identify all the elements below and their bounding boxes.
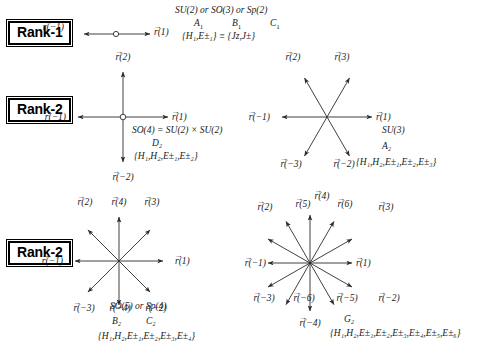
root-label-d2-r1: →r(1) bbox=[172, 112, 187, 122]
rank-2-badge-second: Rank-2 bbox=[6, 239, 73, 267]
caption-d2-groups: SO(4) = SU(2) × SU(2) bbox=[132, 124, 222, 137]
caption-a2-groups: SU(3) bbox=[382, 124, 405, 137]
root-label-b2-r3: →r(3) bbox=[145, 197, 160, 207]
root-label-a2-rm2: →r(−2) bbox=[333, 159, 354, 169]
root-diagram-b2 bbox=[65, 207, 173, 315]
root-label-d2-r2: →r(2) bbox=[116, 52, 131, 62]
root-vector-b2-r3 bbox=[119, 230, 150, 261]
root-label-a2-rm3: →r(−3) bbox=[280, 159, 301, 169]
caption-d2-generators: {H₁,H₂,E±₁,E±₂} bbox=[134, 150, 198, 163]
root-vector-g2-r3 bbox=[310, 239, 352, 263]
root-label-d2-rm1: →r(−1) bbox=[45, 112, 66, 122]
root-label-a1-rm1: →r(−1) bbox=[43, 22, 64, 32]
root-label-g2-r3: →r(3) bbox=[379, 202, 394, 212]
root-label-b2-r4: →r(4) bbox=[112, 197, 127, 207]
caption-a1-cartan-c: C1 bbox=[270, 17, 280, 33]
caption-g2-generators: {H₁,H₂,E±₁,E±₂,E±₃,E±₄,E±₅,E±₆} bbox=[330, 327, 460, 340]
root-label-g2-r1: →r(1) bbox=[356, 258, 371, 268]
caption-a2-cartan: A₂ bbox=[382, 140, 391, 153]
root-label-a2-r3: →r(3) bbox=[335, 52, 350, 62]
root-label-g2-rm5: →r(−5) bbox=[336, 293, 357, 303]
root-label-a2-rm1: →r(−1) bbox=[249, 112, 270, 122]
root-label-g2-rm6: →r(−6) bbox=[293, 293, 314, 303]
root-vector-a2-rm2 bbox=[327, 117, 350, 156]
root-label-a2-r1: →r(1) bbox=[376, 112, 391, 122]
caption-a1-groups: SU(2) or SO(3) or Sp(2) bbox=[175, 4, 267, 17]
root-label-g2-r4: →r(4) bbox=[315, 191, 330, 201]
root-label-g2-rm1: →r(−1) bbox=[245, 258, 266, 268]
root-vector-a2-r2 bbox=[305, 78, 328, 117]
g2-svg bbox=[252, 203, 368, 331]
b2-svg bbox=[65, 207, 173, 315]
root-vector-b2-rm2 bbox=[119, 261, 150, 292]
root-label-b2-rm3: →r(−3) bbox=[73, 303, 94, 313]
root-label-g2-rm3: →r(−3) bbox=[253, 293, 274, 303]
caption-b2-cartan-c: C₂ bbox=[146, 315, 156, 328]
root-label-d2-rm2: →r(−2) bbox=[112, 172, 133, 182]
root-vector-g2-r5 bbox=[286, 221, 310, 263]
caption-b2-groups: SO(5) or Sp(4) bbox=[110, 300, 166, 313]
caption-d2-cartan: D₂ bbox=[152, 137, 162, 150]
root-label-b2-rm1: →r(−1) bbox=[42, 256, 63, 266]
root-label-b2-r1: →r(1) bbox=[175, 256, 190, 266]
root-label-g2-r5: →r(5) bbox=[296, 199, 311, 209]
caption-b2-cartan-b: B₂ bbox=[112, 315, 121, 328]
root-vector-b2-r2 bbox=[88, 230, 119, 261]
root-vector-a2-rm3 bbox=[305, 117, 328, 156]
root-vector-a2-r3 bbox=[327, 78, 350, 117]
root-vector-g2-r2 bbox=[268, 239, 310, 263]
root-label-a1-r1: →r(1) bbox=[154, 27, 169, 37]
root-vector-g2-r6 bbox=[310, 221, 334, 263]
root-label-b2-r2: →r(2) bbox=[78, 197, 93, 207]
root-label-g2-rm4: →r(−4) bbox=[299, 318, 320, 328]
root-vector-g2-rm3 bbox=[268, 263, 310, 287]
root-label-g2-rm2: →r(−2) bbox=[378, 293, 399, 303]
caption-a1-generators: {H₁,E±₁} ≡ {Jᴢ,J±} bbox=[182, 30, 255, 43]
caption-a2-generators: {H₁,H₂,E±₁,E±₂,E±₃} bbox=[356, 156, 436, 169]
caption-g2-cartan: G₂ bbox=[344, 313, 354, 326]
caption-b2-generators: {H₁,H₂,E±₁,E±₂,E±₃,E±₄} bbox=[98, 330, 195, 343]
root-label-g2-r6: →r(6) bbox=[338, 199, 353, 209]
root-vector-g2-rm2 bbox=[310, 263, 352, 287]
root-diagram-g2 bbox=[252, 203, 368, 331]
root-label-g2-r2: →r(2) bbox=[258, 202, 273, 212]
origin-marker bbox=[113, 31, 118, 36]
root-label-a2-r2: →r(2) bbox=[286, 52, 301, 62]
root-vector-b2-rm3 bbox=[88, 261, 119, 292]
origin-marker-d2 bbox=[120, 114, 126, 120]
